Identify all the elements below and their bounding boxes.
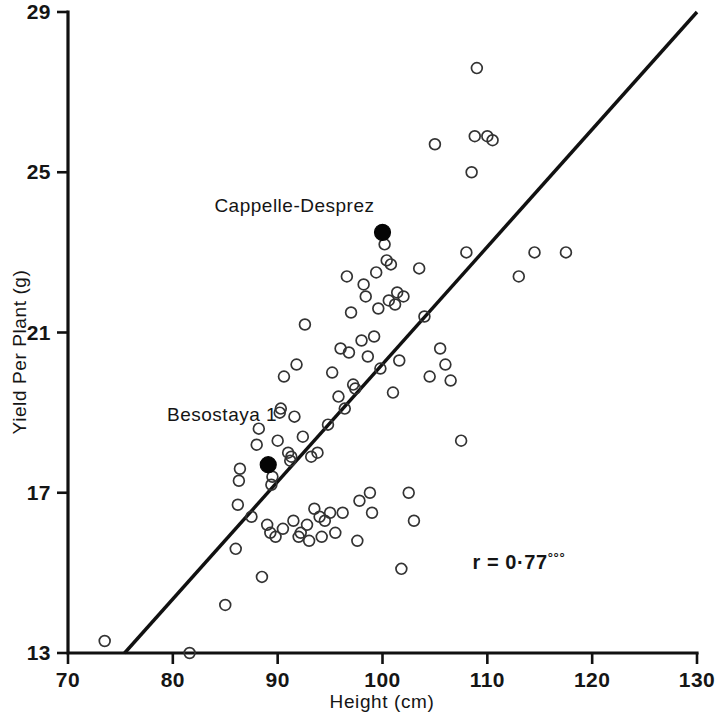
- tick-labels-group: 1317212529708090100110120130: [27, 0, 716, 691]
- x-tick-label-120: 120: [574, 668, 611, 691]
- data-point: [257, 571, 268, 582]
- data-point: [466, 167, 477, 178]
- axes-group: [68, 12, 697, 653]
- data-point: [346, 307, 357, 318]
- data-point: [414, 263, 425, 274]
- data-point: [325, 507, 336, 518]
- data-point: [409, 515, 420, 526]
- data-point: [529, 247, 540, 258]
- data-point: [304, 535, 315, 546]
- data-point: [435, 343, 446, 354]
- data-point: [360, 291, 371, 302]
- data-point: [358, 279, 369, 290]
- y-tick-label-17: 17: [27, 481, 51, 504]
- data-point: [333, 391, 344, 402]
- data-point: [367, 507, 378, 518]
- data-point: [251, 439, 262, 450]
- x-axis-title: Height (cm): [330, 691, 435, 712]
- correlation-value: r = 0·77: [472, 551, 547, 573]
- regression-line: [125, 12, 697, 653]
- data-point: [561, 247, 572, 258]
- data-point: [232, 499, 243, 510]
- data-point: [330, 527, 341, 538]
- cappelle-desprez-label: Cappelle-Desprez: [214, 195, 374, 216]
- data-point: [297, 431, 308, 442]
- data-point: [430, 139, 441, 150]
- data-point: [99, 636, 110, 647]
- data-point: [369, 331, 380, 342]
- tick-marks-group: [57, 12, 697, 664]
- data-point: [272, 435, 283, 446]
- data-point: [471, 63, 482, 74]
- axis-spine: [68, 12, 697, 653]
- data-point: [309, 503, 320, 514]
- data-point: [300, 319, 311, 330]
- data-point: [371, 267, 382, 278]
- data-point-filled: [260, 457, 276, 473]
- data-point: [220, 600, 231, 611]
- x-tick-label-130: 130: [679, 668, 716, 691]
- data-point: [253, 423, 264, 434]
- data-point: [288, 515, 299, 526]
- data-point: [445, 375, 456, 386]
- data-point: [302, 519, 313, 530]
- correlation-annotation: r = 0·77°°°: [472, 550, 565, 573]
- data-point: [365, 487, 376, 498]
- data-point: [337, 507, 348, 518]
- scatter-plot-figure: 1317212529708090100110120130 Cappelle-De…: [0, 0, 717, 723]
- plot-canvas: 1317212529708090100110120130 Cappelle-De…: [0, 0, 717, 723]
- data-point: [362, 351, 373, 362]
- y-tick-label-25: 25: [27, 160, 51, 183]
- data-point-filled: [375, 224, 391, 240]
- data-point: [279, 371, 290, 382]
- correlation-annotation-group: r = 0·77°°°: [472, 550, 565, 573]
- y-tick-label-29: 29: [27, 0, 51, 23]
- data-point: [373, 303, 384, 314]
- data-point: [461, 247, 472, 258]
- data-point: [354, 495, 365, 506]
- data-point: [394, 355, 405, 366]
- data-point: [352, 535, 363, 546]
- regression-line-group: [125, 12, 697, 653]
- data-point: [440, 359, 451, 370]
- y-axis-title: Yield Per Plant (g): [9, 270, 30, 435]
- x-tick-label-70: 70: [56, 668, 80, 691]
- x-tick-label-110: 110: [470, 668, 505, 691]
- axis-titles-group: Height (cm) Yield Per Plant (g): [9, 270, 434, 712]
- point-annotation-labels-group: Cappelle-DesprezBesostaya 1: [167, 195, 374, 424]
- data-point: [396, 563, 407, 574]
- data-point: [235, 463, 246, 474]
- data-point: [327, 367, 338, 378]
- data-point: [456, 435, 467, 446]
- data-point: [316, 531, 327, 542]
- data-point: [341, 271, 352, 282]
- data-point: [233, 475, 244, 486]
- besostaya-1-label: Besostaya 1: [167, 404, 277, 425]
- data-point: [289, 411, 300, 422]
- data-point: [388, 387, 399, 398]
- y-tick-label-21: 21: [27, 321, 51, 344]
- data-point: [403, 487, 414, 498]
- data-point: [469, 131, 480, 142]
- y-tick-label-13: 13: [27, 641, 51, 664]
- data-point: [424, 371, 435, 382]
- data-point: [356, 335, 367, 346]
- significance-markers: °°°: [548, 550, 565, 565]
- data-point: [291, 359, 302, 370]
- data-point: [230, 543, 241, 554]
- x-tick-label-80: 80: [161, 668, 185, 691]
- x-tick-label-100: 100: [364, 668, 401, 691]
- x-tick-label-90: 90: [265, 668, 289, 691]
- data-point: [513, 271, 524, 282]
- data-point: [278, 523, 289, 534]
